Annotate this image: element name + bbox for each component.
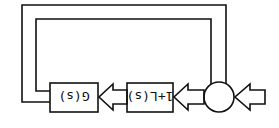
block-g-label: G(s)	[58, 89, 89, 104]
inner-feedback-line	[36, 19, 211, 91]
arrow-junction-to-l-icon	[174, 84, 204, 110]
block-diagram: G(s) 1+L(s)	[0, 0, 279, 128]
block-l-label: 1+L(s)	[127, 89, 174, 104]
input-arrow-icon	[235, 84, 265, 110]
arrow-l-to-g-icon	[99, 84, 127, 110]
summing-junction	[204, 82, 234, 112]
